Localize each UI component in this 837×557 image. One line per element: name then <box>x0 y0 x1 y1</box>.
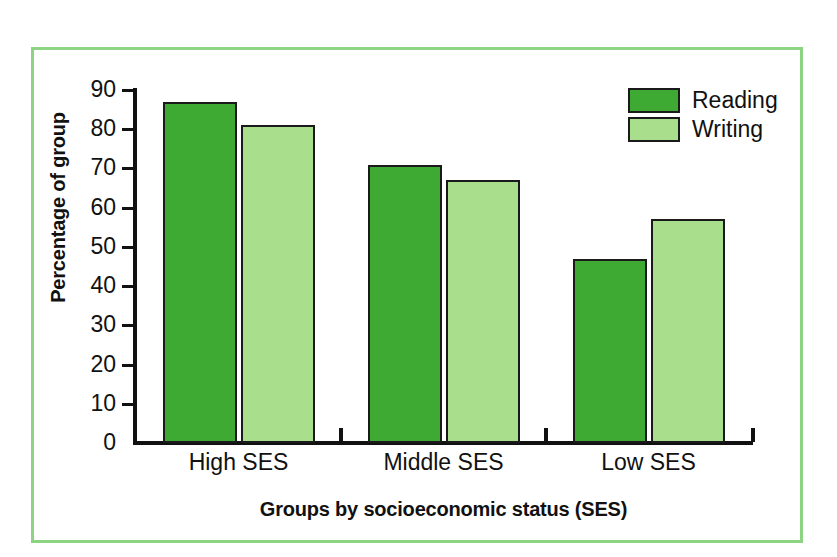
y-axis-tick <box>122 324 135 327</box>
y-axis-tick <box>122 89 135 92</box>
legend-swatch-reading <box>628 88 680 113</box>
x-axis-category-label: High SES <box>136 449 341 476</box>
y-axis-tick-label: 60 <box>74 196 116 219</box>
legend-label-reading: Reading <box>692 89 778 112</box>
x-axis-category-label: Middle SES <box>341 449 546 476</box>
bar-middle-ses-writing <box>446 180 520 443</box>
y-axis-tick <box>122 128 135 131</box>
bar-middle-ses-reading <box>368 165 442 443</box>
bar-high-ses-reading <box>163 102 237 443</box>
y-axis-tick <box>122 207 135 210</box>
legend-item-reading: Reading <box>628 88 803 113</box>
bar-low-ses-reading <box>573 259 647 443</box>
chart-legend: ReadingWriting <box>628 88 803 146</box>
legend-item-writing: Writing <box>628 117 803 142</box>
y-axis-tick-labels: 0102030405060708090 <box>70 0 116 557</box>
y-axis-tick-label: 10 <box>74 392 116 415</box>
x-axis-title: Groups by socioeconomic status (SES) <box>136 498 751 521</box>
x-axis-category-label: Low SES <box>546 449 751 476</box>
legend-label-writing: Writing <box>692 118 763 141</box>
y-axis-tick <box>122 285 135 288</box>
y-axis-tick-label: 30 <box>74 313 116 336</box>
y-axis-tick <box>122 167 135 170</box>
y-axis-tick-label: 0 <box>74 431 116 454</box>
y-axis-tick <box>122 364 135 367</box>
bar-high-ses-writing <box>241 125 315 443</box>
y-axis-tick <box>122 403 135 406</box>
y-axis-tick-label: 80 <box>74 117 116 140</box>
y-axis-tick-label: 90 <box>74 78 116 101</box>
y-axis-tick-label: 50 <box>74 235 116 258</box>
y-axis-tick-label: 20 <box>74 353 116 376</box>
y-axis-tick-label: 70 <box>74 156 116 179</box>
chart-figure: 0102030405060708090 Percentage of group … <box>0 0 837 557</box>
x-axis-tick <box>751 428 755 442</box>
legend-swatch-writing <box>628 117 680 142</box>
y-axis-title: Percentage of group <box>47 88 70 328</box>
bar-low-ses-writing <box>651 219 725 443</box>
y-axis-tick <box>122 246 135 249</box>
y-axis-tick-label: 40 <box>74 274 116 297</box>
